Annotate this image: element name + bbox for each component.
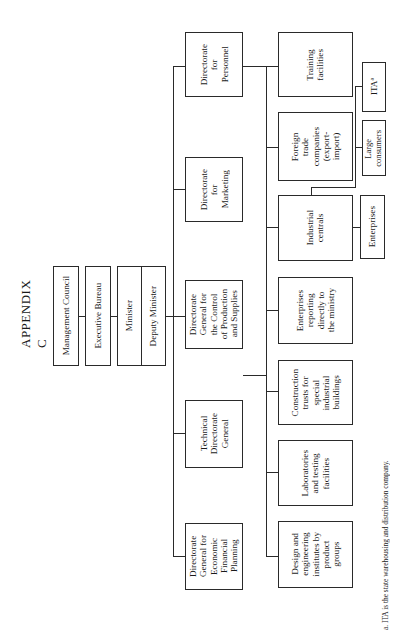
- construction-trusts-label: Construction trusts for special industri…: [290, 369, 341, 416]
- foreign-trade-box: Foreign trade companies (export- import): [278, 112, 353, 181]
- ita-box: ITAª: [362, 62, 386, 112]
- large-consumers-label: Large consumers: [364, 130, 383, 167]
- enterprises-box: Enterprises: [360, 195, 385, 259]
- design-institutes-label: Design and engineering institutes by pro…: [290, 532, 341, 577]
- directorate-production-label: Directorate General for the Control of P…: [188, 289, 239, 339]
- directorate-economic-box: Directorate General for Economic Financi…: [185, 523, 243, 590]
- directorate-marketing-label: Directorate for Marketing: [199, 169, 230, 210]
- minister-label: Minister: [124, 300, 134, 331]
- foreign-trade-label: Foreign trade companies (export- import): [290, 127, 341, 166]
- deputy-minister-box: Deputy Minister: [141, 266, 166, 366]
- minister-box: Minister: [117, 266, 142, 366]
- large-consumers-box: Large consumers: [362, 120, 386, 176]
- directorate-economic-label: Directorate General for Economic Financi…: [188, 535, 239, 577]
- training-facilities-label: Training facilities: [305, 49, 326, 81]
- laboratories-label: Laboratories and testing facilities: [300, 450, 331, 496]
- executive-bureau-label: Executive Bureau: [93, 283, 103, 349]
- deputy-minister-label: Deputy Minister: [148, 286, 158, 346]
- management-council-label: Management Council: [61, 276, 71, 355]
- connector: [311, 187, 312, 196]
- directorate-technical-box: Technical Directorate General: [185, 400, 243, 468]
- directorate-production-box: Directorate General for the Control of P…: [185, 280, 243, 349]
- enterprises-label: Enterprises: [367, 206, 377, 247]
- connector: [311, 187, 356, 188]
- enterprises-reporting-box: Enterprises reporting directly to the mi…: [278, 277, 353, 344]
- training-facilities-box: Training facilities: [278, 32, 353, 97]
- units-trunk-line: [266, 66, 267, 557]
- industrial-centrals-box: Industrial centrals: [278, 195, 353, 261]
- directorate-marketing-box: Directorate for Marketing: [185, 157, 243, 222]
- connector: [355, 86, 356, 188]
- ita-label: ITAª: [369, 78, 379, 95]
- footnote: a. ITA is the state warehousing and dist…: [381, 330, 390, 630]
- page-title: APPENDIX C: [18, 270, 50, 348]
- executive-bureau-box: Executive Bureau: [85, 266, 111, 366]
- industrial-centrals-label: Industrial centrals: [305, 210, 326, 245]
- management-council-box: Management Council: [53, 266, 79, 366]
- directorate-technical-label: Technical Directorate General: [199, 413, 230, 454]
- directorate-personnel-box: Directorate for Personnel: [185, 32, 243, 97]
- connector: [243, 66, 267, 67]
- construction-trusts-box: Construction trusts for special industri…: [278, 360, 353, 425]
- directorate-personnel-label: Directorate for Personnel: [199, 44, 230, 85]
- laboratories-box: Laboratories and testing facilities: [278, 440, 353, 506]
- enterprises-reporting-label: Enterprises reporting directly to the mi…: [295, 288, 336, 332]
- design-institutes-box: Design and engineering institutes by pro…: [278, 521, 353, 588]
- main-trunk-line: [173, 66, 174, 557]
- connector: [243, 375, 267, 376]
